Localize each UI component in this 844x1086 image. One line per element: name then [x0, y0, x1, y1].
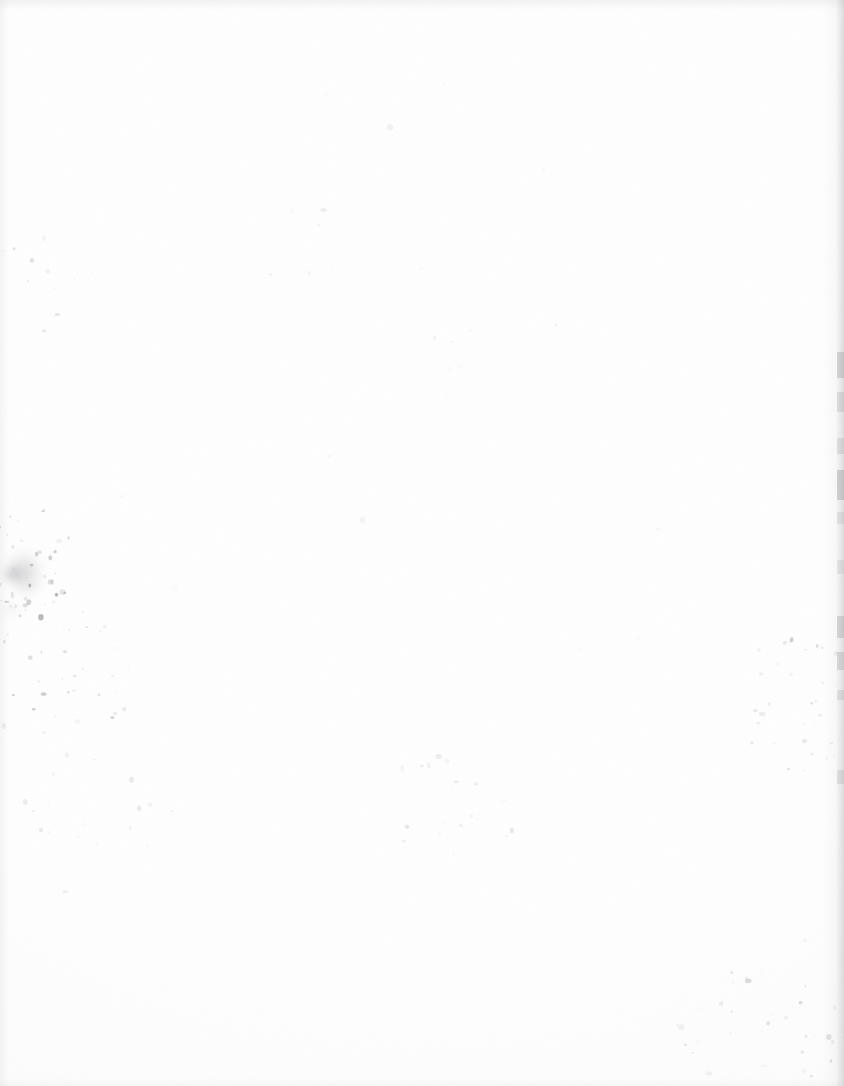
scanned-page [0, 0, 844, 1086]
paper-background [0, 0, 844, 1086]
